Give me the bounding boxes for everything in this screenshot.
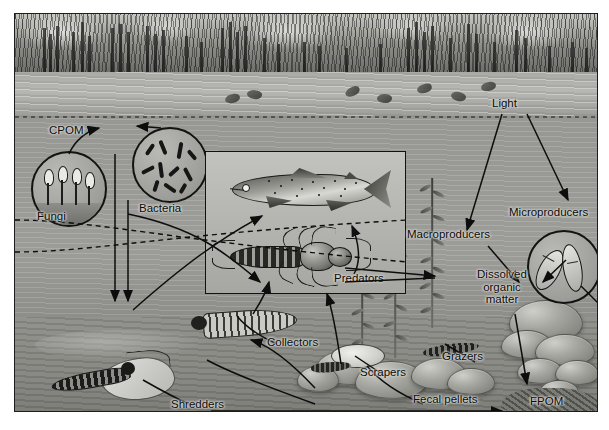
silt-bank [35, 330, 205, 360]
forest-canopy [15, 14, 597, 72]
predators-inset-box: Predators [205, 151, 406, 294]
dom-line-1: Dissolved [477, 268, 527, 280]
label-dissolved-organic-matter: Dissolved organic matter [467, 268, 537, 306]
label-light: Light [492, 97, 517, 110]
label-collectors: Collectors [267, 336, 318, 349]
macroproducer-plant [419, 178, 445, 328]
label-microproducers: Microproducers [509, 206, 588, 219]
streambed-rock [447, 368, 495, 395]
dom-line-3: matter [486, 293, 519, 305]
microproducers-inset-circle [527, 230, 598, 304]
label-scrapers: Scrapers [360, 366, 406, 379]
label-bacteria: Bacteria [139, 202, 181, 215]
water-surface [15, 72, 597, 118]
illustration-frame: Predators [14, 13, 598, 412]
predators-inset-label: Predators [334, 272, 384, 285]
figure-canvas: Predators [0, 0, 609, 430]
label-fpom: FPOM [530, 395, 563, 408]
label-fungi: Fungi [37, 210, 66, 223]
label-fecal-pellets: Fecal pellets [413, 393, 478, 406]
dom-line-2: organic [483, 281, 521, 293]
bacteria-inset-circle [132, 127, 208, 203]
label-grazers: Grazers [442, 350, 483, 363]
label-macroproducers: Macroproducers [407, 228, 490, 241]
label-cpom: CPOM [49, 124, 84, 137]
label-shredders: Shredders [171, 398, 224, 411]
